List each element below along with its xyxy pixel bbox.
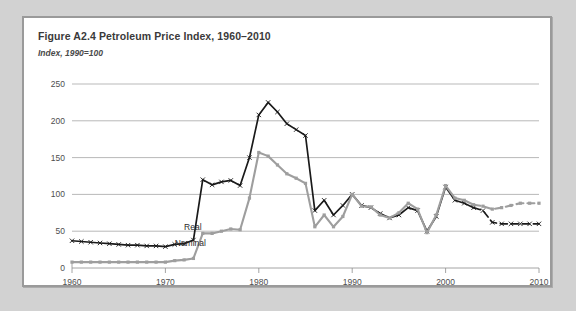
data-point-marker	[276, 163, 279, 166]
data-point-marker	[407, 202, 410, 205]
data-point-marker	[266, 100, 270, 104]
data-point-marker	[145, 261, 148, 264]
x-tick-label: 1990	[343, 277, 362, 287]
data-point-marker	[453, 196, 456, 199]
data-point-marker	[89, 261, 92, 264]
figure-panel: Figure A2.4 Petroleum Price Index, 1960–…	[22, 16, 552, 287]
x-tick-label: 1980	[249, 277, 268, 287]
data-point-marker	[248, 196, 251, 199]
chart-plot-area: 050100150200250 196019701980199020002010…	[24, 18, 554, 289]
data-point-marker	[201, 232, 204, 235]
data-point-marker	[323, 213, 326, 216]
data-point-marker	[182, 258, 185, 261]
data-point-marker	[463, 199, 466, 202]
y-tick-label: 50	[56, 226, 66, 236]
data-point-marker	[500, 206, 503, 209]
data-point-marker	[528, 202, 531, 205]
data-point-marker	[332, 225, 335, 228]
data-point-marker	[313, 225, 316, 228]
data-point-marker	[267, 155, 270, 158]
data-point-marker	[444, 184, 447, 187]
data-point-marker	[239, 228, 242, 231]
data-point-marker	[126, 261, 129, 264]
series-annotation-real: Real	[184, 222, 202, 232]
data-point-marker	[257, 151, 260, 154]
data-series-group	[70, 100, 541, 264]
data-point-marker	[388, 216, 391, 219]
data-point-marker	[136, 261, 139, 264]
data-point-marker	[397, 211, 400, 214]
data-point-marker	[416, 208, 419, 211]
screenshot-root: Figure A2.4 Petroleum Price Index, 1960–…	[0, 0, 576, 311]
series-line-real	[72, 102, 474, 246]
y-tick-label: 100	[51, 189, 65, 199]
x-tick-label: 2010	[530, 277, 549, 287]
data-point-marker	[285, 172, 288, 175]
y-tick-label: 250	[51, 79, 65, 89]
gridlines-group	[72, 84, 539, 231]
data-point-marker	[481, 205, 484, 208]
data-point-marker	[509, 204, 512, 207]
data-point-marker	[519, 202, 522, 205]
x-axis-tick-labels: 196019701980199020002010	[63, 277, 549, 287]
x-tick-label: 2000	[436, 277, 455, 287]
y-tick-label: 150	[51, 153, 65, 163]
data-point-marker	[80, 261, 83, 264]
data-point-marker	[108, 261, 111, 264]
data-point-marker	[229, 227, 232, 230]
petroleum-price-index-line-chart: 050100150200250 196019701980199020002010…	[24, 18, 554, 289]
data-point-marker	[481, 208, 485, 212]
y-axis-tick-labels: 050100150200250	[51, 79, 65, 273]
data-point-marker	[341, 203, 345, 207]
x-axis	[72, 262, 539, 273]
data-point-marker	[164, 261, 167, 264]
data-point-marker	[369, 205, 372, 208]
data-point-marker	[537, 202, 540, 205]
data-point-marker	[98, 261, 101, 264]
data-point-marker	[275, 110, 279, 114]
data-point-marker	[173, 259, 176, 262]
data-point-marker	[360, 205, 363, 208]
y-tick-label: 200	[51, 116, 65, 126]
data-point-marker	[379, 213, 382, 216]
data-point-marker	[304, 182, 307, 185]
series-annotation-nominal: Nominal	[175, 238, 206, 248]
y-tick-label: 0	[60, 263, 65, 273]
data-point-marker	[351, 193, 354, 196]
data-point-marker	[220, 230, 223, 233]
data-point-marker	[435, 213, 438, 216]
data-point-marker	[472, 203, 475, 206]
x-tick-label: 1970	[156, 277, 175, 287]
data-point-marker	[491, 208, 494, 211]
data-point-marker	[425, 231, 428, 234]
data-point-marker	[295, 177, 298, 180]
data-point-marker	[117, 261, 120, 264]
data-point-marker	[341, 215, 344, 218]
x-tick-label: 1960	[63, 277, 82, 287]
data-point-marker	[70, 261, 73, 264]
data-point-marker	[211, 232, 214, 235]
data-point-marker	[154, 261, 157, 264]
data-point-marker	[192, 257, 195, 260]
